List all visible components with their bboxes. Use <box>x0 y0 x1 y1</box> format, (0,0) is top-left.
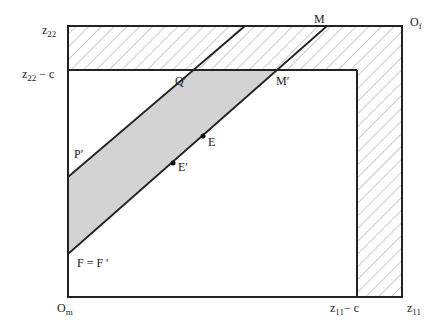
label-Om: Om <box>57 302 73 317</box>
label-Of: Of <box>410 16 422 31</box>
label-M: M <box>314 13 325 25</box>
point-E <box>201 134 206 139</box>
label-z11-minus-c: z11− c <box>330 302 359 317</box>
point-E-prime <box>171 161 176 166</box>
label-F-equals-F-prime: F = F ′ <box>77 257 109 269</box>
label-M-prime: M′ <box>276 75 289 87</box>
label-E: E <box>208 136 215 148</box>
label-z22: z22 <box>42 24 56 39</box>
label-P-prime: P′ <box>74 148 83 160</box>
label-z11: z11 <box>407 302 421 317</box>
edgeworth-box-diagram <box>0 0 442 330</box>
label-E-prime: E′ <box>178 161 188 173</box>
label-Q-prime: Q′ <box>175 75 186 87</box>
label-z22-minus-c: z22 − c <box>22 68 54 83</box>
